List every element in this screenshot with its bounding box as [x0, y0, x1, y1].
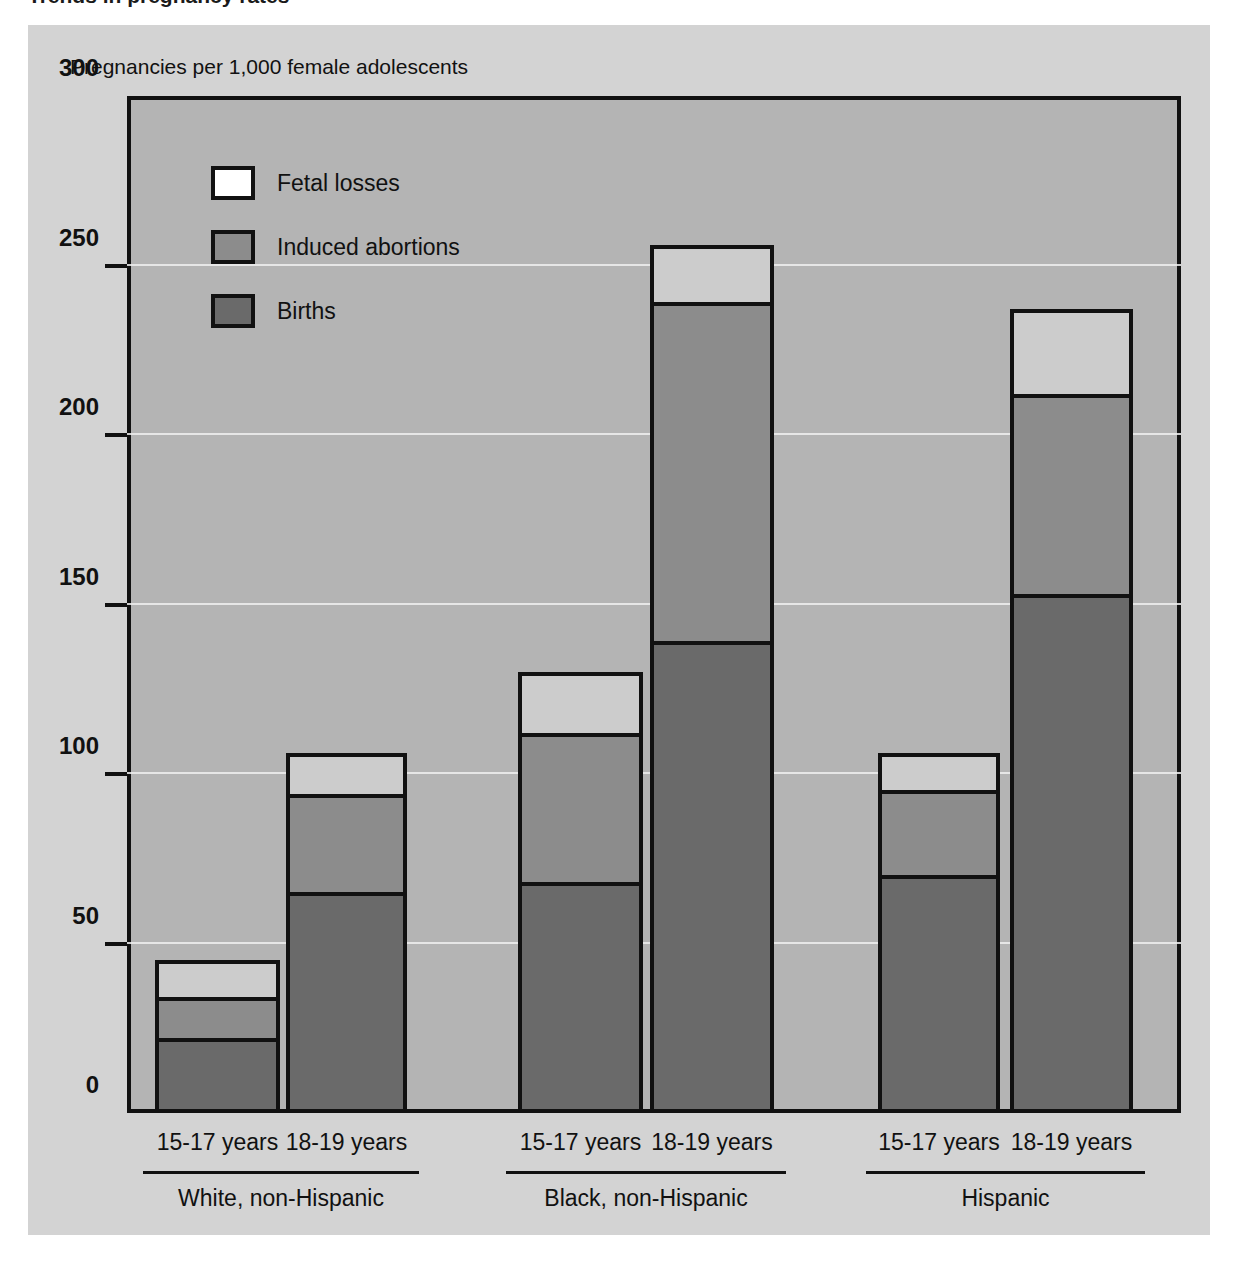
bar-segment-induced-abortions[interactable] — [155, 997, 280, 1042]
legend-swatch-icon — [211, 294, 255, 328]
bar-segment-births[interactable] — [518, 882, 643, 1113]
cut-off-header-text: Trends in pregnancy rates — [28, 0, 289, 8]
y-tick-100 — [105, 772, 127, 776]
legend-swatch-icon — [211, 166, 255, 200]
bar-segment-births[interactable] — [155, 1038, 280, 1113]
bar-segment-births[interactable] — [878, 875, 1000, 1113]
bar-segment-fetal-losses[interactable] — [1010, 309, 1133, 398]
bar-segment-induced-abortions[interactable] — [286, 794, 407, 896]
stacked-bar[interactable] — [155, 964, 280, 1113]
legend-label: Induced abortions — [277, 234, 460, 261]
x-axis-age-label: 15-17 years — [878, 1129, 999, 1156]
bar-segment-fetal-losses[interactable] — [878, 753, 1000, 794]
y-axis-label-250: 250 — [59, 224, 99, 252]
stacked-bar[interactable] — [878, 757, 1000, 1113]
x-axis-age-label: 15-17 years — [157, 1129, 278, 1156]
y-axis-label-150: 150 — [59, 563, 99, 591]
cut-off-header-strip: Trends in pregnancy rates — [0, 0, 1238, 22]
y-tick-250 — [105, 264, 127, 268]
x-axis-age-label: 18-19 years — [651, 1129, 772, 1156]
bar-segment-births[interactable] — [286, 892, 407, 1113]
y-axis-title: Pregnancies per 1,000 female adolescents — [70, 55, 468, 79]
legend-label: Fetal losses — [277, 170, 400, 197]
bar-segment-induced-abortions[interactable] — [650, 302, 774, 645]
y-axis-label-100: 100 — [59, 732, 99, 760]
y-axis-label-50: 50 — [72, 902, 99, 930]
y-axis-label-300: 300 — [59, 54, 99, 82]
y-tick-50 — [105, 942, 127, 946]
legend-item-induced-abortions[interactable]: Induced abortions — [211, 215, 460, 279]
x-axis-group-label: Hispanic — [961, 1185, 1049, 1212]
bar-segment-births[interactable] — [650, 641, 774, 1113]
legend-label: Births — [277, 298, 336, 325]
bar-segment-fetal-losses[interactable] — [286, 753, 407, 798]
x-axis-group-label: White, non-Hispanic — [178, 1185, 384, 1212]
stacked-bar[interactable] — [650, 249, 774, 1113]
legend-item-fetal-losses[interactable]: Fetal losses — [211, 151, 460, 215]
group-rule — [866, 1171, 1145, 1174]
bar-segment-induced-abortions[interactable] — [518, 733, 643, 886]
legend-swatch-icon — [211, 230, 255, 264]
x-axis-age-label: 15-17 years — [520, 1129, 641, 1156]
bar-segment-fetal-losses[interactable] — [518, 672, 643, 737]
y-axis-label-0: 0 — [86, 1071, 99, 1099]
x-axis-age-label: 18-19 years — [286, 1129, 407, 1156]
legend-item-births[interactable]: Births — [211, 279, 460, 343]
group-rule — [143, 1171, 419, 1174]
group-rule — [506, 1171, 786, 1174]
y-axis-label-200: 200 — [59, 393, 99, 421]
x-axis-age-label: 18-19 years — [1011, 1129, 1132, 1156]
bar-segment-induced-abortions[interactable] — [1010, 394, 1133, 598]
stacked-bar[interactable] — [1010, 313, 1133, 1113]
bar-segment-fetal-losses[interactable] — [650, 245, 774, 307]
bar-segment-induced-abortions[interactable] — [878, 790, 1000, 879]
y-tick-150 — [105, 603, 127, 607]
bar-segment-fetal-losses[interactable] — [155, 960, 280, 1001]
y-tick-200 — [105, 433, 127, 437]
stacked-bar[interactable] — [518, 676, 643, 1113]
bar-segment-births[interactable] — [1010, 594, 1133, 1113]
stacked-bar[interactable] — [286, 757, 407, 1113]
x-axis-group-label: Black, non-Hispanic — [544, 1185, 747, 1212]
chart-legend: Fetal lossesInduced abortionsBirths — [211, 151, 460, 343]
figure-panel: Pregnancies per 1,000 female adolescents… — [28, 25, 1210, 1235]
